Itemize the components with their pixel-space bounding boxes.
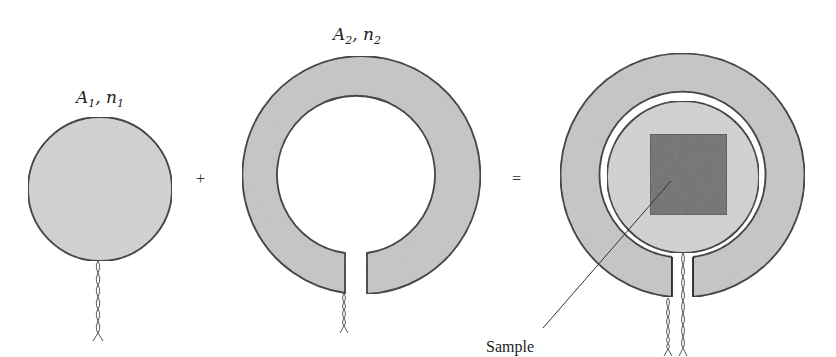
part1-label: A1, n1: [74, 87, 124, 110]
ring-shape: [242, 56, 480, 294]
sample-square: [650, 134, 727, 215]
equals-operator: =: [512, 170, 521, 187]
twisted-wire-icon: [93, 261, 103, 341]
disk-shape: [28, 117, 172, 261]
twisted-wire-icon: [340, 294, 348, 333]
part1-disk: A1, n1: [28, 87, 172, 341]
result-assembly: Sample: [486, 53, 805, 356]
twisted-wire-icon: [664, 298, 672, 356]
part2-split-ring: A2, n2: [242, 24, 480, 333]
part2-label: A2, n2: [331, 24, 381, 47]
plus-operator: +: [196, 170, 205, 187]
sample-label: Sample: [486, 338, 534, 356]
capacitor-sum-diagram: A1, n1 + A2, n2 = Sample: [0, 0, 836, 357]
